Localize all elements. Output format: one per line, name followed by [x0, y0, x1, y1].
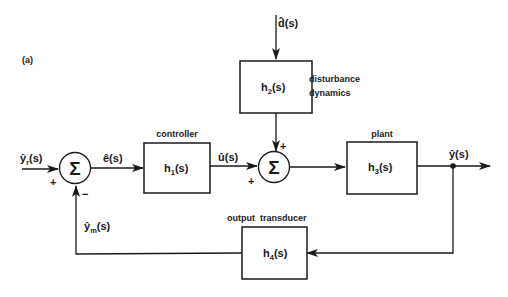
takeoff-point: [450, 163, 456, 169]
output-signal-label: ŷ(s): [449, 148, 469, 160]
minus-sign: −: [82, 188, 88, 200]
disturbance-signal-label: d̂(s): [278, 17, 299, 29]
controller-caption: controller: [156, 129, 198, 139]
plus-sign: +: [248, 175, 254, 187]
sigma-symbol: Σ: [69, 158, 80, 179]
measured-signal-label: ŷm(s): [84, 220, 111, 235]
block-diagram: (a) Σ + − Σ + +: [0, 0, 508, 297]
disturbance-caption-line2: dynamics: [309, 88, 351, 98]
panel-label: (a): [22, 55, 33, 65]
plant-caption: plant: [371, 129, 393, 139]
control-signal-label: û(s): [218, 151, 239, 163]
plus-sign: +: [280, 140, 286, 152]
error-signal-label: ê(s): [103, 152, 123, 164]
disturbance-caption-line1: disturbance: [309, 74, 360, 84]
plus-sign: +: [50, 176, 56, 188]
transducer-caption: output transducer: [227, 213, 307, 223]
reference-signal-label: ŷr(s): [20, 152, 43, 167]
summing-junction-1: Σ + −: [50, 153, 91, 201]
summing-junction-2: Σ + +: [248, 140, 290, 187]
sigma-symbol: Σ: [268, 157, 279, 178]
